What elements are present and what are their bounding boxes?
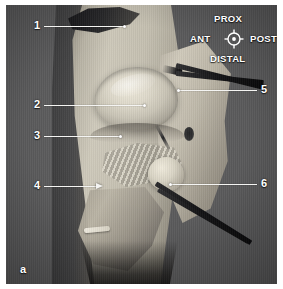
callout-endpoint-dot-6: [169, 183, 172, 186]
anatomy-figure-panel: 123456 PROX ANT POST DISTAL a: [0, 0, 283, 289]
orientation-compass: PROX ANT POST DISTAL: [192, 13, 277, 67]
compass-label-posterior: POST: [250, 33, 277, 44]
callout-number-6: 6: [261, 178, 267, 189]
callout-endpoint-dot-2: [143, 104, 146, 107]
callout-endpoint-dot-5: [177, 89, 180, 92]
callout-endpoint-dot-1: [123, 25, 126, 28]
callout-number-1: 1: [34, 20, 40, 31]
compass-label-anterior: ANT: [190, 33, 210, 44]
callout-endpoint-dot-3: [119, 135, 122, 138]
callout-leader-line-4: [44, 186, 96, 187]
panel-letter: a: [20, 263, 26, 275]
callout-number-2: 2: [34, 99, 40, 110]
callout-leader-line-6: [171, 184, 257, 185]
crosshair-circle-icon: [224, 29, 244, 49]
callout-leader-line-1: [44, 26, 124, 27]
callout-number-4: 4: [34, 180, 40, 191]
dissection-photograph: 123456 PROX ANT POST DISTAL a: [6, 5, 277, 284]
callout-leader-line-2: [44, 105, 144, 106]
compass-label-proximal: PROX: [214, 13, 242, 24]
callout-leader-line-5: [179, 90, 257, 91]
callout-leader-line-3: [44, 136, 120, 137]
callout-number-5: 5: [261, 84, 267, 95]
callout-number-3: 3: [34, 130, 40, 141]
compass-label-distal: DISTAL: [210, 53, 245, 64]
callout-arrowhead-4: [96, 183, 103, 189]
